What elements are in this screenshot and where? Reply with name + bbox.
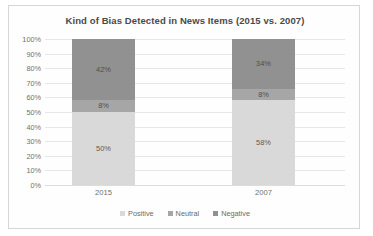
plot-area: 42% 8% 50% 34% 8% 58% — [45, 39, 345, 185]
segment-label-neutral-2007: 8% — [258, 91, 269, 98]
x-tick-label-2015: 2015 — [72, 188, 135, 197]
x-axis: 2015 2007 — [45, 188, 345, 204]
chart-title: Kind of Bias Detected in News Items (201… — [9, 15, 361, 26]
segment-label-positive-2007: 58% — [256, 139, 271, 146]
x-tick-label-2007: 2007 — [232, 188, 295, 197]
legend-label-negative: Negative — [221, 209, 250, 218]
segment-negative-2007[interactable]: 34% — [232, 39, 295, 89]
legend-label-positive: Positive — [128, 209, 154, 218]
chart-container: Kind of Bias Detected in News Items (201… — [8, 5, 360, 229]
gridline-0 — [45, 185, 345, 186]
y-tick-label-70: 70% — [26, 78, 41, 87]
y-tick-label-0: 0% — [30, 181, 41, 190]
y-tick-label-80: 80% — [26, 64, 41, 73]
legend-swatch-neutral-icon — [168, 211, 173, 216]
segment-negative-2015[interactable]: 42% — [72, 39, 135, 100]
segment-neutral-2007[interactable]: 8% — [232, 89, 295, 101]
legend-item-neutral[interactable]: Neutral — [168, 209, 200, 218]
y-tick-label-10: 10% — [26, 166, 41, 175]
segment-label-negative-2007: 34% — [256, 60, 271, 67]
segment-neutral-2015[interactable]: 8% — [72, 100, 135, 112]
y-tick-label-100: 100% — [22, 35, 41, 44]
segment-label-neutral-2015: 8% — [98, 102, 109, 109]
segment-positive-2007[interactable]: 58% — [232, 100, 295, 185]
y-tick-label-60: 60% — [26, 93, 41, 102]
stacked-column-2007[interactable]: 34% 8% 58% — [232, 39, 295, 185]
y-axis: 100% 90% 80% 70% 60% 50% 40% 30% 20% 10%… — [9, 39, 43, 185]
stacked-column-2015[interactable]: 42% 8% 50% — [72, 39, 135, 185]
segment-label-positive-2015: 50% — [96, 145, 111, 152]
legend-swatch-positive-icon — [120, 211, 125, 216]
legend-swatch-negative-icon — [213, 211, 218, 216]
segment-label-negative-2015: 42% — [96, 66, 111, 73]
y-tick-label-50: 50% — [26, 108, 41, 117]
chart-legend: Positive Neutral Negative — [9, 209, 361, 218]
y-tick-label-20: 20% — [26, 151, 41, 160]
legend-label-neutral: Neutral — [176, 209, 200, 218]
segment-positive-2015[interactable]: 50% — [72, 112, 135, 185]
y-tick-label-40: 40% — [26, 122, 41, 131]
y-tick-label-90: 90% — [26, 49, 41, 58]
legend-item-positive[interactable]: Positive — [120, 209, 154, 218]
legend-item-negative[interactable]: Negative — [213, 209, 250, 218]
y-tick-label-30: 30% — [26, 137, 41, 146]
